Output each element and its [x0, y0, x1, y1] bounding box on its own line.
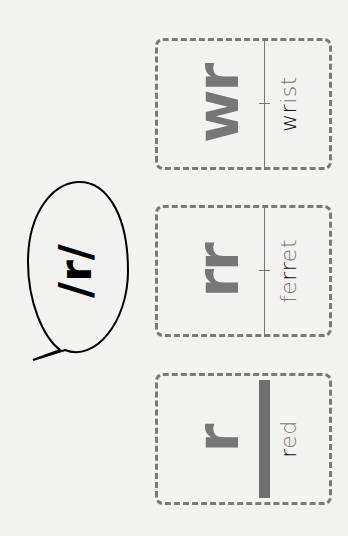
divider-line	[264, 38, 265, 170]
example-word: red	[276, 376, 301, 502]
spelling-letters: wr	[178, 41, 258, 167]
spelling-card-wr: wr wrist	[155, 38, 332, 170]
divider-bar	[259, 380, 270, 498]
spelling-card-rr: rr ferret	[155, 205, 332, 337]
worksheet-rotated: /r/ r red rr ferret wr wrist	[0, 0, 348, 536]
spelling-letters: r	[178, 376, 258, 502]
spelling-letters: rr	[178, 208, 258, 334]
divider-tick	[259, 103, 270, 104]
phoneme-label: /r/	[25, 180, 125, 362]
example-word: ferret	[276, 208, 301, 334]
spelling-card-r: r red	[155, 373, 332, 505]
divider-line	[264, 205, 265, 337]
example-word: wrist	[276, 41, 301, 167]
divider-tick	[259, 270, 270, 271]
